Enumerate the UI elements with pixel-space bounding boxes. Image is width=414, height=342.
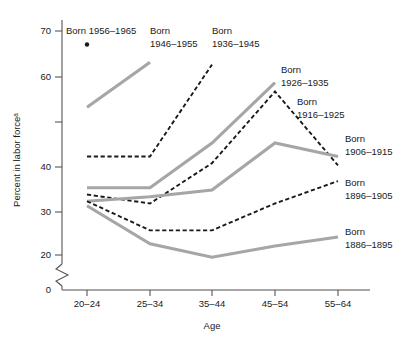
y-axis-title: Percent in labor forceᵃ — [11, 113, 22, 207]
y-tick-label-20: 20 — [40, 249, 51, 260]
series-label-1906-1915-line2: 1906–1915 — [345, 146, 393, 157]
series-label-1886-1895-line2: 1886–1895 — [345, 239, 393, 250]
x-tick-label-2: 25–34 — [137, 298, 163, 309]
series-label-1926-1935-line2: 1926–1935 — [281, 77, 329, 88]
series-label-1906-1915-line1: Born — [345, 133, 365, 144]
x-tick-label-1: 20–24 — [74, 298, 100, 309]
series-label-1946-1955-line1: Born — [150, 25, 170, 36]
y-tick-label-40: 40 — [40, 161, 51, 172]
series-label-1916-1925-line1: Born — [297, 96, 317, 107]
x-tick-label-3: 35–44 — [199, 298, 225, 309]
y-tick-label-30: 30 — [40, 206, 51, 217]
series-label-1946-1955-line2: 1946–1955 — [150, 38, 198, 49]
series-label-1896-1905-line1: Born — [345, 177, 365, 188]
x-tick-label-4: 45–54 — [262, 298, 288, 309]
x-tick-label-5: 55–64 — [325, 298, 351, 309]
series-label-1896-1905-line2: 1896–1905 — [345, 190, 393, 201]
series-label-1916-1925-line2: 1916–1925 — [297, 109, 345, 120]
chart-container: 70 60 40 30 20 0 Percent in labor forceᵃ… — [0, 0, 414, 342]
series-label-1926-1935-line1: Born — [281, 64, 301, 75]
series-label-1956-1965: Born 1956–1965 — [66, 25, 136, 36]
y-tick-label-60: 60 — [40, 71, 51, 82]
series-label-1936-1945-line1: Born — [212, 25, 232, 36]
series-label-1936-1945-line2: 1936–1945 — [212, 38, 260, 49]
labor-force-line-chart: 70 60 40 30 20 0 Percent in labor forceᵃ… — [0, 0, 414, 342]
series-label-1886-1895-line1: Born — [345, 226, 365, 237]
x-axis-title: Age — [204, 320, 221, 331]
data-point-born-1956-1965 — [85, 42, 89, 46]
y-tick-label-70: 70 — [40, 25, 51, 36]
y-tick-label-0: 0 — [46, 284, 51, 295]
